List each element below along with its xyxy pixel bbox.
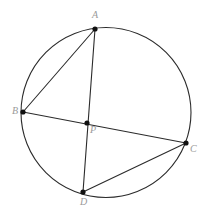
circumscribed-circle (21, 28, 191, 198)
vertex-dot-b (20, 109, 25, 114)
vertex-dot-group (20, 26, 188, 194)
vertex-dot-c (183, 140, 188, 145)
point-label-d: D (80, 197, 87, 207)
point-label-p: P (90, 125, 96, 135)
chord-group (23, 29, 186, 192)
point-label-a: A (92, 10, 98, 20)
geometry-canvas (0, 0, 208, 220)
vertex-dot-d (80, 189, 85, 194)
vertex-dot-p (84, 120, 89, 125)
chord-bc (23, 112, 186, 143)
point-label-b: B (12, 106, 18, 116)
geometry-figure: A B C D P (0, 0, 208, 220)
vertex-dot-a (92, 26, 97, 31)
point-label-c: C (190, 144, 197, 154)
chord-ad (83, 29, 95, 192)
